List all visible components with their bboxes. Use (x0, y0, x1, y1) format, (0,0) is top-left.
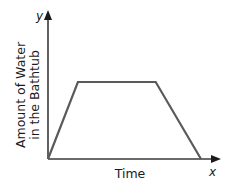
water-amount-line (48, 82, 201, 159)
y-axis-label-line-2: in the Bathtub (27, 50, 42, 140)
y-axis-label-line-1: Amount of Water (13, 41, 28, 148)
x-axis-arrow-icon (211, 155, 221, 163)
bathtub-water-chart: y x Time Amount of Water in the Bathtub (0, 0, 230, 192)
x-axis-label: Time (114, 166, 146, 181)
x-axis-letter: x (208, 165, 217, 179)
y-axis-arrow-icon (44, 10, 52, 20)
y-axis-letter: y (35, 9, 44, 23)
y-axis-label: Amount of Water in the Bathtub (13, 41, 42, 148)
